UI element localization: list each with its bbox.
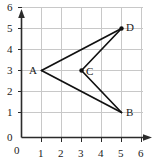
y-tick-label-2: 2 <box>7 86 13 97</box>
axes <box>22 16 146 138</box>
x-tick-label-1: 1 <box>38 148 44 159</box>
y-tick-label-5: 5 <box>7 23 13 34</box>
x-tick-label-5: 5 <box>118 148 124 159</box>
coordinate-plane-figure: 0 1 2 3 4 5 6 0 1 2 3 4 5 6 A B C D <box>0 0 163 166</box>
y-tick-label-0: 0 <box>7 132 13 143</box>
x-tick-label-6: 6 <box>138 148 144 159</box>
y-tick-label-6: 6 <box>7 2 13 13</box>
x-tick-label-3: 3 <box>78 148 84 159</box>
y-axis-arrowhead <box>18 9 25 18</box>
point-label-c: C <box>86 66 93 77</box>
x-tick-label-2: 2 <box>58 148 64 159</box>
point-label-a: A <box>29 65 37 76</box>
x-tick-label-4: 4 <box>98 148 104 159</box>
y-tick-label-1: 1 <box>7 107 13 118</box>
plot-canvas <box>0 0 163 166</box>
x-axis-arrowhead <box>143 134 152 141</box>
x-tick-label-0: 0 <box>14 145 20 156</box>
vertex-dot-c <box>79 68 83 72</box>
point-label-d: D <box>126 22 134 33</box>
vertex-dot-d <box>119 26 123 30</box>
y-tick-label-3: 3 <box>7 65 13 76</box>
point-label-b: B <box>126 107 133 118</box>
y-tick-label-4: 4 <box>7 44 13 55</box>
